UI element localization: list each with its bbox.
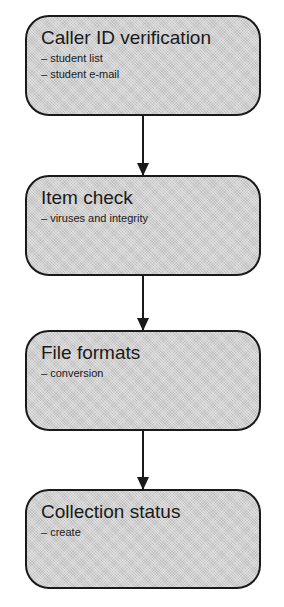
box-item: – student e-mail (41, 67, 245, 81)
box-item: – student list (41, 51, 245, 65)
arrow-down-icon (142, 431, 144, 489)
box-title: Item check (41, 187, 245, 209)
box-item-check: Item check – viruses and integrity (25, 175, 261, 276)
arrow-down-icon (142, 116, 144, 175)
box-collection-status: Collection status – create (25, 489, 261, 589)
box-title: Caller ID verification (41, 27, 245, 49)
box-file-formats: File formats – conversion (25, 330, 261, 431)
box-item: – conversion (41, 366, 245, 380)
box-item: – viruses and integrity (41, 211, 245, 225)
box-item: – create (41, 525, 245, 539)
box-title: File formats (41, 342, 245, 364)
arrow-down-icon (142, 276, 144, 330)
box-caller-id-verification: Caller ID verification – student list – … (25, 15, 261, 116)
box-title: Collection status (41, 501, 245, 523)
